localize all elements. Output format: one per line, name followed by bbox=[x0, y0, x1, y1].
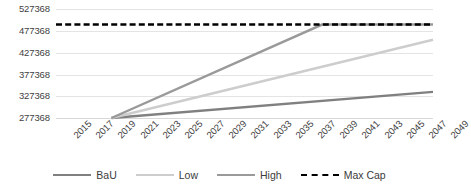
legend-swatch-icon bbox=[217, 174, 255, 176]
legend-swatch-icon bbox=[53, 174, 91, 176]
y-axis-labels: 527368477368427368377368327368277368 bbox=[0, 0, 54, 123]
x-axis-labels: 2015201720192021202320252027202920312033… bbox=[56, 118, 433, 154]
x-tick-label: 2049 bbox=[448, 118, 470, 140]
x-tick-label: 2033 bbox=[271, 118, 293, 140]
x-tick-label: 2021 bbox=[138, 118, 160, 140]
legend-item-low[interactable]: Low bbox=[136, 169, 198, 181]
x-tick-label: 2043 bbox=[382, 118, 404, 140]
x-tick-label: 2035 bbox=[293, 118, 315, 140]
legend-swatch-icon bbox=[301, 174, 339, 176]
series-layer bbox=[56, 5, 433, 118]
legend-swatch-icon bbox=[136, 174, 174, 176]
x-tick-label: 2039 bbox=[337, 118, 359, 140]
x-tick-label: 2017 bbox=[93, 118, 115, 140]
x-tick-label: 2015 bbox=[71, 118, 93, 140]
legend-label: Low bbox=[179, 169, 198, 181]
y-tick-label: 477368 bbox=[19, 26, 50, 36]
legend-item-high[interactable]: High bbox=[217, 169, 282, 181]
chart-legend: BaULowHighMax Cap bbox=[0, 163, 439, 187]
x-tick-label: 2031 bbox=[248, 118, 270, 140]
x-tick-label: 2023 bbox=[160, 118, 182, 140]
x-tick-label: 2045 bbox=[404, 118, 426, 140]
legend-item-bau[interactable]: BaU bbox=[53, 169, 116, 181]
series-line-low bbox=[111, 40, 433, 118]
plot-area bbox=[56, 5, 433, 118]
legend-label: High bbox=[260, 169, 282, 181]
legend-label: Max Cap bbox=[344, 169, 386, 181]
y-tick-label: 527368 bbox=[19, 4, 50, 14]
x-tick-label: 2025 bbox=[182, 118, 204, 140]
x-tick-label: 2037 bbox=[315, 118, 337, 140]
y-tick-label: 277368 bbox=[19, 113, 50, 123]
y-tick-label: 327368 bbox=[19, 91, 50, 101]
y-tick-label: 427368 bbox=[19, 48, 50, 58]
x-tick-label: 2019 bbox=[115, 118, 137, 140]
x-tick-label: 2029 bbox=[226, 118, 248, 140]
y-tick-label: 377368 bbox=[19, 70, 50, 80]
x-tick-label: 2047 bbox=[426, 118, 448, 140]
x-tick-label: 2041 bbox=[359, 118, 381, 140]
legend-item-max-cap[interactable]: Max Cap bbox=[301, 169, 386, 181]
x-tick-label: 2027 bbox=[204, 118, 226, 140]
legend-label: BaU bbox=[96, 169, 116, 181]
